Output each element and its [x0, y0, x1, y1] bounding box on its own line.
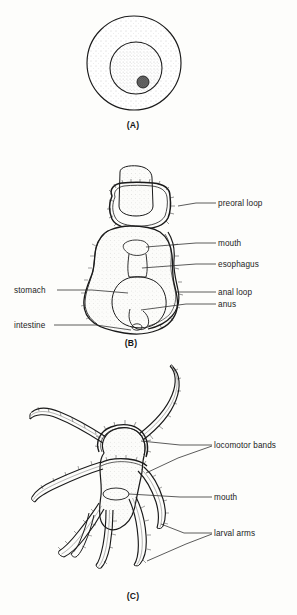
- larval-arm-inner-left-inner: [71, 513, 89, 554]
- label-mouth-b: mouth: [218, 239, 242, 248]
- larval-arm-mid-lower-cap: [96, 565, 101, 568]
- panel-a-letter: (A): [127, 120, 140, 130]
- leader-locomotor-bands-2: [146, 446, 212, 473]
- larval-arm-inner-left-cap: [71, 554, 76, 557]
- figure-page: (A): [0, 0, 297, 615]
- label-locomotor-bands: locomotor bands: [214, 441, 276, 450]
- larval-arm-upper-right-outer: [139, 366, 175, 434]
- label-intestine: intestine: [14, 321, 46, 330]
- leader-larval-arms-1: [161, 524, 212, 533]
- larval-arm-upper-right-inner: [143, 367, 179, 440]
- larval-arm-lower-left-midline: [62, 506, 102, 554]
- leader-mouth-c: [129, 494, 212, 497]
- larval-arm-upper-left-outer: [32, 408, 106, 437]
- panel-c-larva: (C) locomotor bands mouth larval arms: [30, 365, 276, 601]
- egg-nucleolus: [137, 76, 149, 88]
- larval-arm-lateral-left-outer: [32, 462, 101, 497]
- larval-arm-lower-left-inner: [64, 509, 104, 557]
- larval-arm-right-inner: [138, 471, 158, 528]
- label-preoral-loop: preoral loop: [218, 199, 263, 208]
- larval-arm-upper-right-cilia: [150, 369, 181, 439]
- preoral-lobe: [119, 166, 153, 216]
- panel-b-letter: (B): [125, 338, 138, 348]
- larval-arm-lower-left-cap: [59, 551, 64, 557]
- leader-larval-arms-2: [147, 534, 212, 561]
- label-anal-loop: anal loop: [218, 288, 252, 297]
- label-anus: anus: [218, 300, 236, 309]
- egg-nucleus: [110, 42, 162, 94]
- label-mouth-c: mouth: [214, 493, 238, 502]
- panel-b-larva: (B) preoral loop mouth esophagus anal lo…: [14, 166, 263, 348]
- larval-arm-upper-left-cilia: [38, 407, 96, 434]
- label-stomach: stomach: [14, 286, 46, 295]
- panel-a-egg: (A): [87, 16, 181, 130]
- label-larval-arms: larval arms: [214, 529, 255, 538]
- leader-locomotor-bands-1: [141, 441, 212, 445]
- panel-c-letter: (C): [127, 591, 140, 601]
- larval-development-figure: (A): [0, 0, 297, 615]
- leader-preoral-loop: [178, 203, 216, 206]
- label-esophagus: esophagus: [218, 260, 259, 269]
